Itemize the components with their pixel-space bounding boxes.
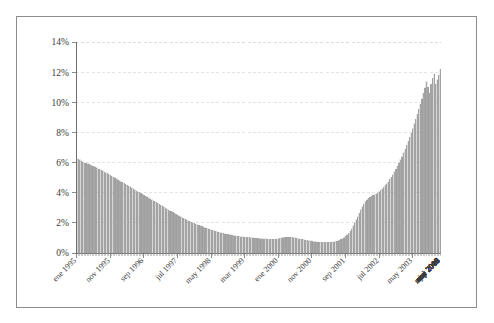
bar xyxy=(334,242,335,253)
bar xyxy=(247,237,248,253)
bar xyxy=(124,183,125,253)
bar xyxy=(285,237,286,253)
bar xyxy=(311,241,312,253)
bar xyxy=(327,242,328,253)
bar xyxy=(389,179,390,253)
y-tick-label: 4% xyxy=(56,188,69,198)
bar xyxy=(392,175,393,253)
bar xyxy=(421,99,422,253)
bar xyxy=(308,241,309,253)
bar xyxy=(340,239,341,253)
bar xyxy=(195,224,196,253)
bar xyxy=(365,202,366,253)
y-tick-label: 6% xyxy=(56,158,69,168)
bar xyxy=(310,241,311,253)
x-tick-label: nov 2000 xyxy=(285,256,313,284)
bar xyxy=(383,187,384,253)
bar xyxy=(267,239,268,253)
bar xyxy=(235,236,236,253)
bar xyxy=(229,235,230,253)
bar xyxy=(298,239,299,253)
bar xyxy=(345,236,346,253)
bar xyxy=(84,163,85,253)
bar xyxy=(240,237,241,253)
bar xyxy=(244,237,245,253)
y-tick-label: 14% xyxy=(52,37,70,47)
bar xyxy=(354,223,355,253)
y-tick-label: 12% xyxy=(52,68,70,78)
bar xyxy=(93,166,94,253)
y-tick-label: 0% xyxy=(56,248,69,258)
x-tick-label: sep 2001 xyxy=(320,256,347,283)
y-axis-tick-labels: 0%2%4%6%8%10%12%14% xyxy=(52,37,70,258)
chart-figure-frame: 0%2%4%6%8%10%12%14% ene 1995nov 1995sep … xyxy=(16,16,477,308)
bar xyxy=(130,187,131,253)
bar xyxy=(293,238,294,253)
bar xyxy=(395,169,396,253)
bar xyxy=(78,159,79,253)
bar xyxy=(172,212,173,253)
bar xyxy=(256,238,257,253)
x-tick-label: jul 1997 xyxy=(153,256,179,282)
bar xyxy=(120,182,121,253)
bar xyxy=(79,160,80,253)
bar xyxy=(189,221,190,253)
bar xyxy=(243,237,244,253)
bar xyxy=(261,239,262,253)
bar xyxy=(99,169,100,253)
bar xyxy=(214,231,215,253)
bar xyxy=(331,242,332,253)
bar xyxy=(113,177,114,253)
bar xyxy=(91,166,92,253)
y-tick-label: 2% xyxy=(56,218,69,228)
bar xyxy=(346,235,347,253)
x-tick-label: may 2003 xyxy=(385,256,414,285)
bar xyxy=(182,218,183,253)
bar xyxy=(362,207,363,253)
bar xyxy=(110,175,111,253)
bar xyxy=(160,205,161,253)
bar xyxy=(249,237,250,253)
bar xyxy=(380,190,381,253)
bar xyxy=(217,232,218,253)
bar xyxy=(279,238,280,253)
bar xyxy=(388,182,389,253)
bar xyxy=(85,163,86,253)
bar xyxy=(360,210,361,253)
bar xyxy=(125,184,126,253)
bar xyxy=(423,93,424,253)
bar xyxy=(301,239,302,253)
bar xyxy=(336,241,337,253)
bar xyxy=(304,240,305,253)
bar xyxy=(382,189,383,253)
bar xyxy=(435,84,436,253)
x-tick-label: sep 1996 xyxy=(118,256,145,283)
bar xyxy=(430,84,431,253)
bar xyxy=(194,223,195,253)
bar xyxy=(266,239,267,253)
bar xyxy=(178,216,179,253)
bar xyxy=(397,166,398,253)
bar xyxy=(175,214,176,253)
bar xyxy=(278,239,279,253)
bar xyxy=(108,174,109,253)
bar xyxy=(168,210,169,253)
bar xyxy=(127,185,128,253)
y-tick-label: 8% xyxy=(56,128,69,138)
bar xyxy=(314,242,315,253)
bar xyxy=(119,181,120,253)
bar xyxy=(440,69,441,253)
bar xyxy=(104,172,105,253)
bar xyxy=(282,238,283,253)
bar xyxy=(325,242,326,253)
bar xyxy=(201,226,202,253)
bar xyxy=(102,171,103,253)
bar xyxy=(405,149,406,253)
bar xyxy=(156,202,157,253)
bar xyxy=(292,237,293,253)
bar xyxy=(136,191,137,253)
bar xyxy=(116,179,117,253)
bar xyxy=(272,239,273,253)
bar xyxy=(264,239,265,253)
bar xyxy=(253,238,254,253)
